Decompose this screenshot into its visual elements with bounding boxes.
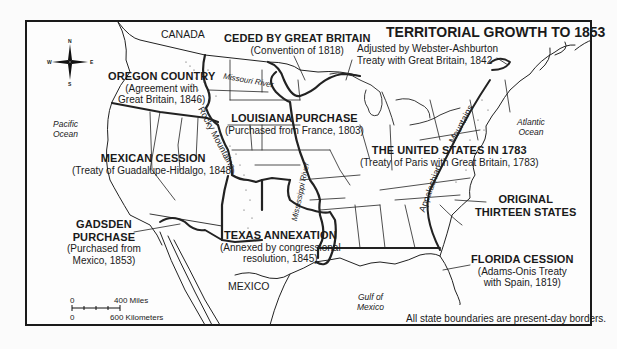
label-pacific-ocean: Pacific Ocean xyxy=(53,120,78,140)
label-atlantic-ocean: Atlantic Ocean xyxy=(517,118,545,138)
label-canada: CANADA xyxy=(161,28,205,40)
region-texas-annexation: TEXAS ANNEXATION (Annexed by congression… xyxy=(220,229,341,265)
scale-km-zero: 0 xyxy=(70,313,74,322)
pacific-coastline xyxy=(106,22,162,245)
region-united-states-1783: THE UNITED STATES IN 1783 (Treaty of Par… xyxy=(360,144,539,168)
map-footnote: All state boundaries are present-day bor… xyxy=(406,313,606,325)
compass-rose-icon xyxy=(52,44,88,80)
region-louisiana-purchase: LOUISIANA PURCHASE (Purchased from Franc… xyxy=(225,112,364,136)
region-original-thirteen-states: ORIGINAL THIRTEEN STATES xyxy=(475,193,576,218)
label-gulf-of-mexico: Gulf of Mexico xyxy=(357,293,384,313)
scale-bar xyxy=(72,305,120,311)
baja-coast xyxy=(160,232,205,325)
annotation-webster-ashburton: Adjusted by Webster-Ashburton Treaty wit… xyxy=(357,43,498,66)
region-mexican-cession: MEXICAN CESSION (Treaty of Guadalupe-Hid… xyxy=(72,152,235,176)
scale-km-label: 600 Kilometers xyxy=(110,313,163,322)
compass-east: E xyxy=(90,59,93,65)
scale-miles-label: 400 Miles xyxy=(114,296,148,305)
label-mexico: MEXICO xyxy=(228,280,269,292)
region-oregon-country: OREGON COUNTRY (Agreement with Great Bri… xyxy=(108,70,215,106)
region-gadsden-purchase: GADSDEN PURCHASE (Purchased from Mexico,… xyxy=(67,218,141,266)
region-ceded-by-great-britain: CEDED BY GREAT BRITAIN (Convention of 18… xyxy=(224,32,370,56)
compass-south: S xyxy=(68,81,71,87)
gadsden-boundary xyxy=(160,218,222,240)
scale-miles-zero: 0 xyxy=(70,296,74,305)
region-florida-cession: FLORIDA CESSION (Adams-Onis Treaty with … xyxy=(471,253,574,289)
compass-west: W xyxy=(47,59,52,65)
compass-north: N xyxy=(68,38,72,44)
map-title: TERRITORIAL GROWTH TO 1853 xyxy=(386,24,605,40)
